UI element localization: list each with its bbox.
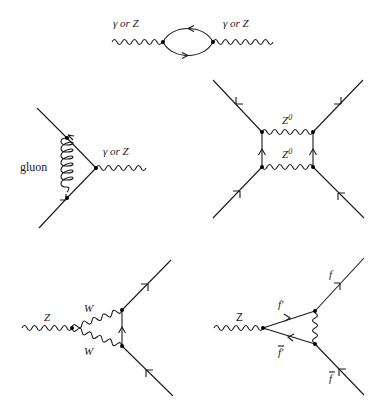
- w-boson-top: [71, 308, 123, 331]
- label-z-top: Z0: [282, 113, 292, 126]
- fermion-line-top-external: [37, 108, 67, 138]
- arrow-icon: [334, 97, 341, 104]
- fermion-line-top-inner: [263, 311, 315, 328]
- label-z-bottom: Z0: [282, 147, 292, 160]
- label-right-boson: γ or Z: [223, 17, 250, 29]
- label-gluon: gluon: [20, 160, 47, 174]
- diagram-w-triangle: Z W W: [22, 260, 173, 396]
- z-boson-incoming: [214, 326, 263, 331]
- vertex-top-right: [311, 130, 315, 134]
- feynman-diagrams-canvas: γ or Z γ or Z gluon γ or Z: [0, 0, 384, 417]
- arrow-icon: [236, 97, 243, 104]
- vertex-top: [313, 309, 317, 313]
- gluon-coil: [61, 138, 73, 192]
- vertex-top: [120, 308, 124, 312]
- label-f-prime: f′: [278, 298, 284, 310]
- vertex-bottom-left: [260, 165, 264, 169]
- label-fbar: f: [329, 372, 334, 384]
- vertex-left: [161, 40, 165, 44]
- label-z: Z: [44, 311, 51, 323]
- vertex-right: [94, 166, 98, 170]
- label-left-boson: γ or Z: [113, 17, 140, 29]
- vertex-bottom: [313, 342, 317, 346]
- photon-line: [96, 166, 146, 171]
- diagram-gluon-vertex-correction: gluon γ or Z: [20, 108, 146, 228]
- diagram-z0-box: Z0 Z0: [213, 80, 364, 218]
- arrow-icon: [60, 194, 66, 200]
- vertex-top: [65, 136, 69, 140]
- fermion-line-incoming: [122, 346, 173, 396]
- vertex-bottom-right: [311, 165, 315, 169]
- label-fbar-prime: f′: [278, 346, 284, 358]
- fermion-line-outgoing: [122, 260, 171, 310]
- vertex-right: [211, 40, 215, 44]
- fermion-line-top-left: [213, 80, 262, 132]
- boson-vertical: [313, 313, 318, 343]
- label-f: f: [329, 268, 334, 280]
- label-w-bottom: W: [84, 345, 94, 357]
- vertex-left: [70, 326, 74, 330]
- w-boson-bottom: [71, 326, 123, 349]
- diagram-fermion-triangle: Z f′ f′ f f: [214, 258, 364, 395]
- vertex-top-left: [260, 130, 264, 134]
- label-boson: γ or Z: [103, 145, 130, 157]
- fermion-line-bottom-left: [213, 167, 262, 218]
- fermion-loop-bottom: [163, 42, 213, 56]
- z-boson-bottom: [262, 165, 313, 170]
- label-w-top: W: [84, 302, 94, 314]
- vertex-bottom: [65, 196, 69, 200]
- vertex-left: [261, 326, 265, 330]
- fermion-line-top-right: [313, 80, 363, 132]
- fermion-line-bottom-external: [39, 198, 67, 228]
- photon-line-left: [112, 40, 163, 45]
- z-boson-incoming: [22, 326, 72, 331]
- z-boson-top: [262, 130, 313, 135]
- label-z: Z: [236, 311, 243, 323]
- arrow-icon: [233, 191, 240, 198]
- vertex-bottom: [120, 344, 124, 348]
- fermion-loop-top: [163, 29, 213, 43]
- arrow-icon: [338, 193, 345, 200]
- photon-line-right: [213, 40, 273, 45]
- diagram-vacuum-polarization: γ or Z γ or Z: [112, 17, 273, 59]
